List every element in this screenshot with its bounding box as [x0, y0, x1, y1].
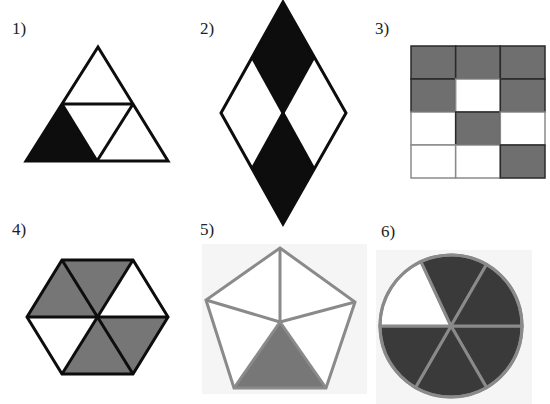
grid-cell: [456, 46, 501, 79]
grid-cell: [456, 79, 501, 112]
figure-5-pentagon: [202, 244, 367, 394]
grid-cell: [411, 112, 456, 145]
grid-cell: [500, 79, 545, 112]
triangle-divider: [97, 104, 133, 161]
grid-cell: [500, 112, 545, 145]
rhombus-shaded-top: [252, 2, 314, 113]
grid-cell: [456, 112, 501, 145]
triangle-shaded-part: [26, 104, 97, 161]
grid-cell: [411, 79, 456, 112]
figure-3-grid: [411, 46, 545, 178]
figure-4-hexagon: [27, 260, 168, 374]
figure-2-rhombus: [221, 2, 346, 224]
grid-cell: [411, 145, 456, 178]
figure-1-triangle: [26, 47, 168, 161]
grid-cell: [456, 145, 501, 178]
grid-cell: [500, 46, 545, 79]
rhombus-shaded-bottom: [252, 113, 314, 224]
grid-cell: [500, 145, 545, 178]
figures-canvas: [0, 0, 550, 404]
figure-6-circle: [376, 250, 532, 404]
grid-cell: [411, 46, 456, 79]
